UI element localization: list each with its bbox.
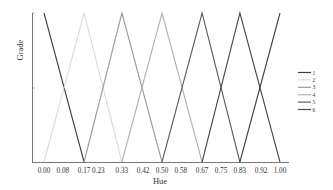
x-tick-label: 0.67 <box>196 167 209 175</box>
membership-function-chart: 0.000.080.170.230.330.420.500.580.670.75… <box>0 0 333 190</box>
series-line-2 <box>44 13 122 162</box>
legend-label-1: 1 <box>313 70 316 76</box>
x-tick-label: 1.00 <box>274 167 287 175</box>
x-tick-label: 0.75 <box>215 167 228 175</box>
legend: 123456 <box>298 70 316 113</box>
legend-label-5: 5 <box>313 99 316 105</box>
legend-label-4: 4 <box>313 92 316 98</box>
x-tick-label: 0.00 <box>38 167 51 175</box>
x-tick-label: 0.23 <box>92 167 105 175</box>
x-tick-label: 0.58 <box>175 167 188 175</box>
x-tick-label: 0.08 <box>57 167 70 175</box>
series-line-3 <box>84 13 162 162</box>
x-tick-label: 0.50 <box>156 167 169 175</box>
x-tick-label: 0.92 <box>255 167 268 175</box>
y-axis-title: Grade <box>15 39 25 60</box>
x-tick-label: 0.83 <box>234 167 247 175</box>
series-line-5 <box>162 13 240 162</box>
x-tick-label: 0.17 <box>78 167 91 175</box>
legend-label-6: 6 <box>313 107 316 113</box>
legend-label-2: 2 <box>313 77 316 83</box>
x-tick-labels: 0.000.080.170.230.330.420.500.580.670.75… <box>38 167 287 175</box>
plot-series <box>44 13 280 162</box>
x-tick-label: 0.33 <box>116 167 129 175</box>
x-tick-label: 0.42 <box>137 167 150 175</box>
series-line-4 <box>122 13 202 162</box>
legend-label-3: 3 <box>313 84 316 90</box>
series-line-6 <box>202 13 280 162</box>
x-axis-title: Hue <box>153 176 167 186</box>
